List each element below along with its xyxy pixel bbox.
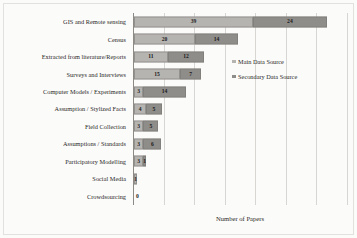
category-label: Census	[108, 30, 126, 47]
bar-segment-secondary: 14	[143, 86, 186, 97]
bar-value-label: 11	[148, 54, 153, 60]
table-row: 36	[133, 135, 347, 152]
bar-segment-secondary: 24	[253, 16, 326, 27]
table-row: 3924	[133, 13, 347, 30]
bar-segment-main: 3	[134, 121, 143, 132]
category-label: Participatory Modelling	[65, 153, 126, 170]
bar-segment-main: 1	[134, 173, 137, 184]
bar-segment-secondary: 6	[143, 138, 161, 149]
bar-value-label: 12	[183, 54, 189, 60]
bar-value-label: 5	[149, 124, 152, 130]
category-label: Computer Models / Experiments	[43, 83, 126, 100]
bar-value-label: 6	[151, 141, 154, 147]
bar-segment-main: 0	[134, 191, 141, 202]
stacked-bar: 1112	[134, 51, 204, 62]
bar-value-label: 5	[152, 106, 155, 112]
category-label: GIS and Remote sensing	[63, 13, 126, 30]
stacked-bar: 36	[134, 138, 161, 149]
category-label: Assumption / Stylized Facts	[55, 100, 126, 117]
legend-label-secondary: Secondary Data Source	[238, 73, 297, 80]
table-row: 314	[133, 83, 347, 100]
bar-rows: 0131363545314157111220143924	[133, 13, 347, 205]
bar-segment-secondary: 1	[143, 156, 146, 167]
bar-segment-main: 3	[134, 156, 143, 167]
stacked-bar: 1	[134, 173, 137, 184]
bar-segment-main: 20	[134, 34, 195, 45]
bar-segment-secondary: 12	[168, 51, 205, 62]
bar-value-label: 4	[139, 106, 142, 112]
table-row: 31	[133, 153, 347, 170]
table-row: 2014	[133, 30, 347, 47]
category-label: Surveys and Interviews	[66, 65, 126, 82]
category-label: Crowdsourcing	[87, 188, 126, 205]
category-label: Assumptions / Standards	[63, 135, 126, 152]
gridline	[347, 13, 348, 205]
category-label: Field Collection	[85, 118, 126, 135]
stacked-bar: 31	[134, 156, 146, 167]
category-axis-labels: CrowdsourcingSocial MediaParticipatory M…	[0, 13, 130, 205]
chart-legend: Main Data Source Secondary Data Source	[232, 58, 297, 80]
bar-segment-main: 11	[134, 51, 168, 62]
legend-item-secondary: Secondary Data Source	[232, 73, 297, 80]
stacked-bar: 3924	[134, 16, 327, 27]
legend-swatch-main-icon	[232, 60, 236, 64]
bar-segment-secondary: 14	[195, 34, 238, 45]
legend-item-main: Main Data Source	[232, 58, 297, 65]
x-axis-title: Number of Papers	[133, 215, 347, 222]
bar-segment-main: 15	[134, 69, 180, 80]
bar-segment-secondary: 5	[143, 121, 158, 132]
stacked-bar: 35	[134, 121, 158, 132]
stacked-bar-chart: CrowdsourcingSocial MediaParticipatory M…	[0, 0, 357, 238]
stacked-bar: 0	[134, 191, 141, 202]
bar-segment-main: 3	[134, 86, 143, 97]
bar-segment-main: 3	[134, 138, 143, 149]
bar-value-label: 14	[214, 36, 220, 42]
table-row: 1	[133, 170, 347, 187]
bar-segment-main: 4	[134, 103, 146, 114]
category-label: Social Media	[92, 170, 126, 187]
legend-label-main: Main Data Source	[238, 58, 284, 65]
bar-segment-secondary: 5	[146, 103, 161, 114]
bar-segment-secondary: 7	[180, 69, 201, 80]
bar-value-label: 0	[136, 193, 139, 199]
legend-swatch-secondary-icon	[232, 75, 236, 79]
bar-value-label: 15	[154, 71, 160, 77]
bar-value-label: 3	[137, 124, 140, 130]
bar-value-label: 39	[191, 19, 197, 25]
plot-area: 0131363545314157111220143924	[133, 13, 347, 205]
bar-value-label: 3	[137, 89, 140, 95]
table-row: 0	[133, 188, 347, 205]
bar-value-label: 20	[162, 36, 168, 42]
stacked-bar: 157	[134, 69, 201, 80]
table-row: 35	[133, 118, 347, 135]
bar-value-label: 7	[189, 71, 192, 77]
bar-value-label: 3	[137, 159, 140, 165]
bar-segment-main: 39	[134, 16, 253, 27]
bar-value-label: 24	[287, 19, 293, 25]
stacked-bar: 45	[134, 103, 162, 114]
bar-value-label: 3	[137, 141, 140, 147]
category-label: Extracted from literature/Reports	[42, 48, 126, 65]
stacked-bar: 2014	[134, 34, 238, 45]
bar-value-label: 1	[143, 159, 146, 165]
stacked-bar: 314	[134, 86, 186, 97]
bar-value-label: 14	[162, 89, 168, 95]
bar-value-label: 1	[134, 176, 137, 182]
table-row: 45	[133, 100, 347, 117]
